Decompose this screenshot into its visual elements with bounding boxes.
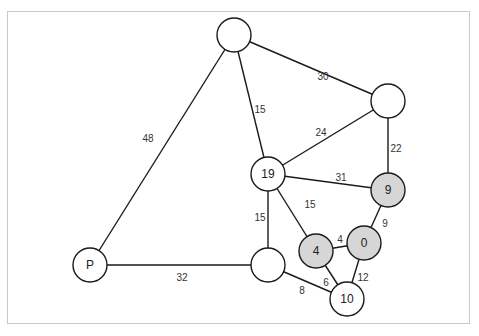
edge-weight-label: 32 bbox=[176, 272, 188, 283]
edge-weight-label: 6 bbox=[323, 277, 329, 288]
node-label: 9 bbox=[385, 183, 392, 197]
edge-weight-label: 15 bbox=[254, 104, 266, 115]
edge-weight-label: 15 bbox=[254, 212, 266, 223]
node-top bbox=[217, 18, 251, 52]
node-n19: 19 bbox=[251, 157, 285, 191]
node-label: P bbox=[86, 258, 94, 272]
edge-weight-label: 9 bbox=[382, 218, 388, 229]
edge-n19-right bbox=[268, 101, 388, 174]
node-right bbox=[371, 84, 405, 118]
edge-weight-label: 22 bbox=[390, 143, 402, 154]
node-circle bbox=[251, 248, 285, 282]
node-mid bbox=[251, 248, 285, 282]
edge-weight-label: 15 bbox=[304, 199, 316, 210]
node-circle bbox=[217, 18, 251, 52]
edge-weight-label: 48 bbox=[142, 133, 154, 144]
edge-weight-label: 31 bbox=[335, 172, 347, 183]
edge-weight-label: 12 bbox=[357, 272, 369, 283]
edge-top-right bbox=[234, 35, 388, 101]
node-label: 19 bbox=[261, 167, 275, 181]
edge-weight-label: 8 bbox=[299, 285, 305, 296]
graph-canvas: 4830152422311515941268321994010P bbox=[0, 0, 479, 336]
node-n0: 0 bbox=[347, 226, 381, 260]
node-circle bbox=[371, 84, 405, 118]
edge-weight-label: 30 bbox=[317, 71, 329, 82]
edge-weight-label: 4 bbox=[337, 234, 343, 245]
node-label: 0 bbox=[361, 236, 368, 250]
edge-weight-label: 24 bbox=[315, 127, 327, 138]
edge-n19-n9 bbox=[268, 174, 388, 190]
node-label: 10 bbox=[340, 292, 354, 306]
node-label: 4 bbox=[313, 244, 320, 258]
node-n10: 10 bbox=[330, 282, 364, 316]
edge-P-top bbox=[90, 35, 234, 265]
node-n4: 4 bbox=[299, 234, 333, 268]
node-n9: 9 bbox=[371, 173, 405, 207]
node-P: P bbox=[73, 248, 107, 282]
